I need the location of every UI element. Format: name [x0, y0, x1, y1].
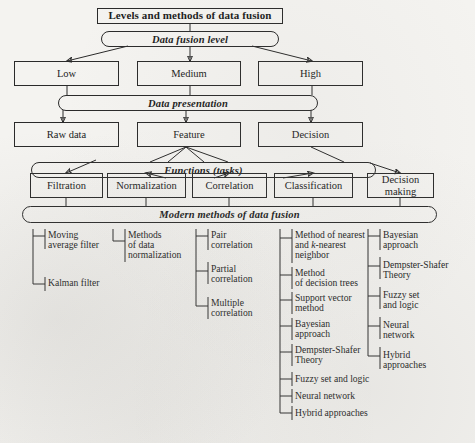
- presentation-box-feature: Feature: [137, 122, 241, 147]
- level-box-medium: Medium: [137, 61, 241, 86]
- method-decision-2: Dempster-Shafer Theory: [383, 260, 473, 280]
- function-box-correlation: Correlation: [192, 173, 267, 198]
- data-fusion-diagram: Levels and methods of data fusion Data f…: [0, 0, 475, 443]
- method-correlation-1: Pair correlation: [211, 230, 277, 250]
- method-classification-8: Hybrid approaches: [295, 408, 380, 418]
- method-classification-5: Dempster-Shafer Theory: [295, 345, 375, 365]
- method-correlation-3: Multiple correlation: [211, 298, 277, 318]
- band-data-presentation: Data presentation: [58, 95, 318, 111]
- method-decision-3: Fuzzy set and logic: [383, 290, 471, 310]
- level-box-low: Low: [14, 61, 119, 86]
- method-classification-3: Support vector method: [295, 293, 375, 313]
- edge-decision-fan: [311, 147, 344, 162]
- method-classification-7: Neural network: [295, 391, 377, 401]
- method-correlation-2: Partial correlation: [211, 264, 277, 284]
- band-modern-methods: Modern methods of data fusion: [22, 206, 437, 223]
- edge-feature-fan-4: [186, 147, 228, 162]
- edge-feature-fan-2: [168, 147, 186, 162]
- presentation-box-raw-data: Raw data: [14, 122, 119, 147]
- presentation-box-decision: Decision: [258, 122, 363, 147]
- edge-feature-fan-3: [186, 147, 204, 162]
- edge-feature-fan-1: [150, 147, 186, 162]
- level-box-high: High: [258, 61, 363, 86]
- band-data-fusion-level: Data fusion level: [101, 31, 279, 47]
- method-decision-4: Neural network: [383, 320, 471, 340]
- method-classification-4: Bayesian approach: [295, 319, 375, 339]
- method-decision-5: Hybrid approaches: [383, 350, 471, 370]
- function-box-classification: Classification: [274, 173, 353, 198]
- edge-fusion-low: [67, 46, 128, 61]
- method-classification-6: Fuzzy set and logic: [295, 374, 377, 384]
- function-box-decision-making: Decision making: [367, 173, 434, 198]
- method-classification-1: Method of nearestand k-nearestneighbor: [295, 230, 375, 260]
- method-classification-2: Method of decision trees: [295, 268, 375, 288]
- method-filtration-1: Moving average filter: [48, 230, 118, 250]
- method-filtration-2: Kalman filter: [48, 278, 118, 288]
- edge-fusion-high: [252, 46, 312, 61]
- method-decision-1: Bayesian approach: [383, 230, 471, 250]
- root-title-box: Levels and methods of data fusion: [97, 8, 283, 24]
- function-box-normalization: Normalization: [107, 173, 186, 198]
- function-box-filtration: Filtration: [30, 173, 103, 198]
- method-normalization-1: Methods of data normalization: [128, 230, 198, 260]
